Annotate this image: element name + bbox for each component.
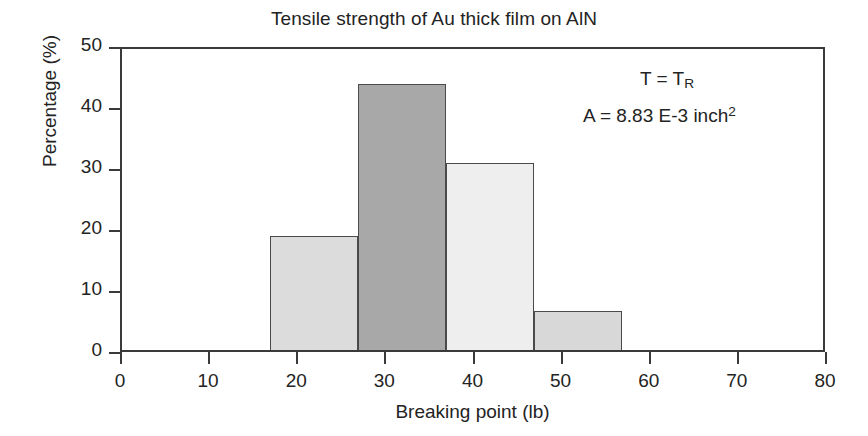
x-axis-tick-label-60: 60 (619, 370, 679, 392)
x-axis-label: Breaking point (lb) (120, 401, 825, 423)
plot-frame (120, 47, 825, 352)
annotation-temperature: T = TR (640, 68, 694, 91)
y-axis-tick-label-0: 0 (91, 339, 102, 361)
annotation-area-base: A = 8.83 E-3 inch (583, 105, 728, 126)
annotation-temperature-subscript: R (684, 76, 694, 91)
chart-figure: Tensile strength of Au thick film on AlN… (0, 0, 868, 436)
annotation-area-superscript: 2 (728, 104, 736, 119)
x-axis-tick-label-50: 50 (531, 370, 591, 392)
y-axis-tick-label-10: 10 (81, 278, 102, 300)
annotation-area: A = 8.83 E-3 inch2 (583, 104, 736, 127)
x-axis-tick-label-30: 30 (354, 370, 414, 392)
y-axis-tick-label-50: 50 (81, 34, 102, 56)
x-axis-tick-60 (649, 352, 651, 364)
y-axis-tick-30 (109, 169, 120, 171)
x-axis-tick-10 (208, 352, 210, 364)
x-axis-tick-label-70: 70 (707, 370, 767, 392)
x-axis-tick-0 (120, 352, 122, 364)
y-axis-tick-50 (109, 47, 120, 49)
x-axis-tick-30 (384, 352, 386, 364)
y-axis-tick-20 (109, 230, 120, 232)
x-axis-tick-label-80: 80 (795, 370, 855, 392)
y-axis-tick-40 (109, 108, 120, 110)
x-axis-tick-70 (737, 352, 739, 364)
x-axis-tick-label-20: 20 (266, 370, 326, 392)
x-axis-tick-80 (825, 352, 827, 364)
annotation-temperature-base: T = T (640, 68, 684, 89)
y-axis-tick-label-20: 20 (81, 217, 102, 239)
y-axis-label: Percentage (%) (39, 0, 61, 211)
x-axis-tick-40 (473, 352, 475, 364)
x-axis-tick-label-0: 0 (90, 370, 150, 392)
y-axis-tick-0 (109, 352, 120, 354)
y-axis-tick-label-30: 30 (81, 156, 102, 178)
x-axis-tick-label-40: 40 (443, 370, 503, 392)
x-axis-tick-label-10: 10 (178, 370, 238, 392)
y-axis-tick-label-40: 40 (81, 95, 102, 117)
y-axis-tick-10 (109, 291, 120, 293)
chart-title: Tensile strength of Au thick film on AlN (0, 8, 868, 30)
x-axis-tick-20 (296, 352, 298, 364)
x-axis-tick-50 (561, 352, 563, 364)
